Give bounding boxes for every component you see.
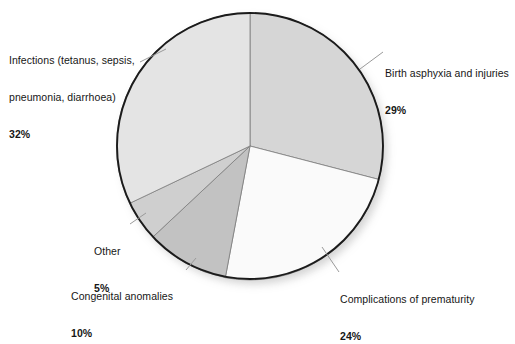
slice-label-complications-prematurity-line1: Complications of prematurity <box>340 293 474 305</box>
slice-label-other-line1: Other <box>94 245 121 257</box>
slice-label-infections: Infections (tetanus, sepsis, pneumonia, … <box>9 29 135 165</box>
slice-label-congenital-anomalies-line1: Congenital anomalies <box>71 290 173 302</box>
slice-label-birth-asphyxia-line1: Birth asphyxia and injuries <box>385 67 509 79</box>
slice-label-other: Other 5% <box>94 220 121 319</box>
slice-percent-other: 5% <box>94 282 121 294</box>
slice-label-infections-line1: Infections (tetanus, sepsis, <box>9 54 135 66</box>
slice-label-complications-prematurity: Complications of prematurity 24% <box>340 268 474 344</box>
slice-percent-birth-asphyxia: 29% <box>385 104 509 116</box>
slice-label-birth-asphyxia: Birth asphyxia and injuries 29% <box>385 42 509 141</box>
slice-percent-infections: 32% <box>9 128 135 140</box>
slice-percent-congenital-anomalies: 10% <box>71 327 173 339</box>
leader-line-birth-asphyxia <box>360 52 383 69</box>
slice-label-infections-line2: pneumonia, diarrhoea) <box>9 91 135 103</box>
slice-label-congenital-anomalies: Congenital anomalies 10% <box>71 265 173 344</box>
slice-percent-complications-prematurity: 24% <box>340 330 474 342</box>
